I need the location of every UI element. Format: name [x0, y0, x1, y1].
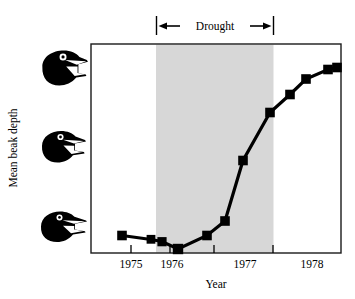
beak-depth-chart: Drought — [0, 0, 355, 299]
x-tick-label-1976: 1976 — [161, 258, 184, 270]
data-point — [265, 108, 275, 118]
data-point — [117, 231, 127, 241]
x-tick-label-1975: 1975 — [120, 258, 143, 270]
x-tick-label-1978: 1978 — [301, 258, 324, 270]
data-point — [301, 74, 311, 84]
data-point — [173, 244, 183, 254]
data-point — [220, 216, 230, 226]
data-point — [285, 90, 295, 100]
data-point — [323, 65, 333, 75]
drought-label: Drought — [196, 20, 235, 33]
data-point — [332, 63, 342, 73]
drought-shaded-band — [156, 45, 274, 253]
y-axis-title: Mean beak depth — [7, 108, 20, 187]
data-point — [202, 231, 212, 241]
data-point — [238, 156, 248, 166]
data-point — [147, 235, 156, 244]
x-tick-label-1977: 1977 — [234, 258, 257, 270]
data-point — [157, 237, 166, 246]
x-axis-title: Year — [205, 278, 226, 290]
figure-container: Drought — [0, 0, 355, 299]
